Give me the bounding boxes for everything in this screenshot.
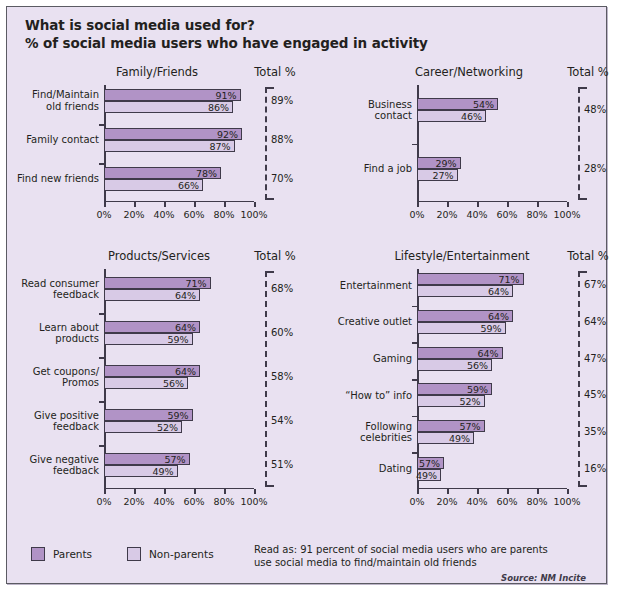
x-axis-tick-label: 40% [466,496,487,507]
category-label: “How to” info [7,390,412,402]
legend-swatch-parents [31,547,45,561]
total-percent-value: 45% [584,389,606,400]
bar-parents: 64% [417,347,503,359]
bar-nonparents: 49% [417,469,441,481]
category-label: Entertainment [7,280,412,292]
x-axis-line [417,488,567,490]
x-axis-tick [417,489,419,494]
legend-nonparents: Non-parents [127,547,214,561]
chart-panel: Lifestyle/EntertainmentTotal %0%20%40%60… [7,7,608,585]
x-axis-tick [507,489,509,494]
bar-value-label: 59% [467,384,488,395]
legend-swatch-nonparents [127,547,141,561]
category-label: Dating [7,463,412,475]
bar-value-label: 52% [459,396,480,407]
total-percent-header: Total % [567,249,608,263]
x-axis-tick-label: 0% [409,496,424,507]
y-axis-tick [412,379,417,381]
category-label: Creative outlet [7,316,412,328]
legend-label-parents: Parents [53,548,92,560]
bar-value-label: 64% [477,347,498,358]
bar-value-label: 49% [416,469,437,480]
total-percent-value: 16% [584,463,606,474]
chart-frame: What is social media used for? % of soci… [6,6,607,584]
legend-label-nonparents: Non-parents [149,548,214,560]
total-bracket [578,271,580,487]
x-axis-tick [477,489,479,494]
source-note: Source: NM Incite [501,573,586,583]
bar-nonparents: 56% [417,359,492,371]
bar-nonparents: 64% [417,285,513,297]
bar-value-label: 71% [498,274,519,285]
total-percent-value: 35% [584,426,606,437]
plot-area: 71%64%64%59%64%56%59%52%57%49%57%49% [417,269,567,489]
bar-value-label: 57% [419,457,440,468]
bar-parents: 57% [417,420,485,432]
x-axis-tick-label: 60% [496,496,517,507]
panel-title: Lifestyle/Entertainment [394,249,529,263]
bar-nonparents: 59% [417,322,506,334]
bar-value-label: 49% [449,433,470,444]
x-axis-tick [567,489,569,494]
category-label: Gaming [7,353,412,365]
bar-value-label: 64% [488,311,509,322]
y-axis-tick [412,306,417,308]
x-axis-tick-label: 100% [553,496,580,507]
y-axis-tick [412,452,417,454]
bar-parents: 71% [417,273,524,285]
bar-value-label: 56% [467,359,488,370]
read-as-note: Read as: 91 percent of social media user… [254,543,554,569]
bar-parents: 59% [417,383,492,395]
total-percent-value: 64% [584,316,606,327]
bar-value-label: 57% [459,421,480,432]
x-axis-tick-label: 20% [436,496,457,507]
y-axis-tick [412,416,417,418]
category-label: Followingcelebrities [7,421,412,444]
total-percent-value: 47% [584,353,606,364]
x-axis-tick [447,489,449,494]
x-axis-tick [537,489,539,494]
bar-nonparents: 49% [417,432,474,444]
bar-value-label: 64% [488,286,509,297]
bar-nonparents: 52% [417,395,485,407]
y-axis-tick [412,342,417,344]
x-axis-tick-label: 80% [526,496,547,507]
bar-parents: 64% [417,310,513,322]
bar-value-label: 59% [480,323,501,334]
legend-parents: Parents [31,547,92,561]
bar-parents: 57% [417,457,444,469]
total-percent-value: 67% [584,279,606,290]
